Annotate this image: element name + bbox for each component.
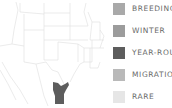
legend-label: WINTER <box>132 25 165 37</box>
year-round-swatch-icon <box>113 47 125 59</box>
legend-label: BREEDING <box>132 3 172 15</box>
legend-item-year-round: YEAR-ROUND <box>113 47 172 59</box>
winter-swatch-icon <box>113 25 125 37</box>
range-map <box>0 0 108 108</box>
legend-item-rare: RARE <box>113 91 154 103</box>
range-legend: BREEDING WINTER YEAR-ROUND MIGRATION RAR… <box>113 0 172 108</box>
legend-item-breeding: BREEDING <box>113 3 172 15</box>
legend-item-migration: MIGRATION <box>113 69 172 81</box>
breeding-swatch-icon <box>113 3 125 15</box>
legend-label: YEAR-ROUND <box>132 47 172 59</box>
legend-label: RARE <box>132 91 154 103</box>
us-state-borders <box>0 0 108 108</box>
migration-swatch-icon <box>113 69 125 81</box>
rare-swatch-icon <box>113 91 125 103</box>
legend-label: MIGRATION <box>132 69 172 81</box>
year-round-range <box>53 82 69 104</box>
legend-item-winter: WINTER <box>113 25 165 37</box>
